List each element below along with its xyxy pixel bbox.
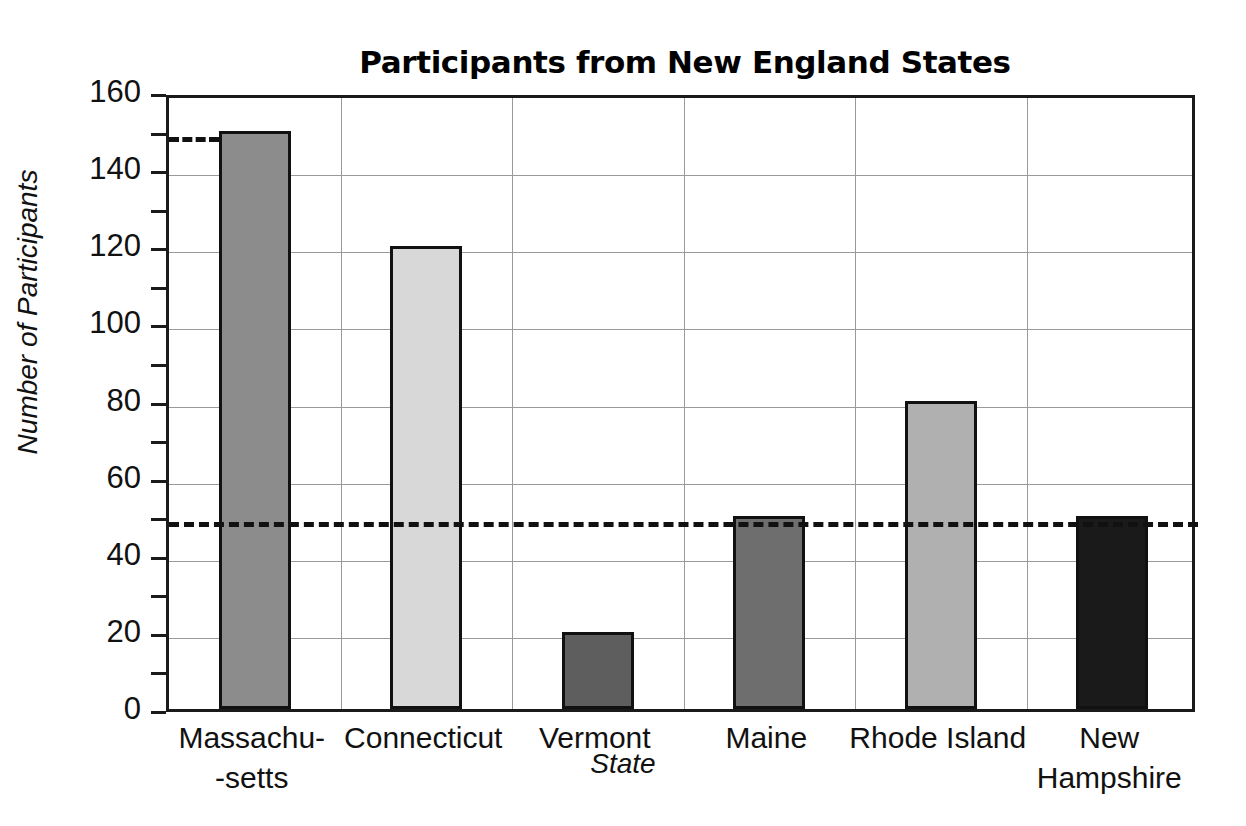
x-category-label-4: Maine: [667, 718, 867, 758]
x-category-line: Connecticut: [324, 718, 524, 758]
y-tick-minor: [151, 672, 166, 675]
gridline-vertical: [341, 98, 342, 709]
y-tick-minor: [151, 287, 166, 290]
gridline-vertical: [1027, 98, 1028, 709]
chart-title: Participants from New England States: [170, 44, 1200, 80]
reference-line-150: [169, 137, 219, 142]
y-tick-minor: [151, 518, 166, 521]
gridline-horizontal: [169, 407, 1192, 408]
x-category-label-5: Rhode Island: [838, 718, 1038, 758]
y-tick-minor: [151, 595, 166, 598]
x-category-label-1: Massachu--setts: [152, 718, 352, 798]
gridline-vertical: [855, 98, 856, 709]
bar-5: [905, 401, 977, 710]
y-tick-label: 100: [0, 305, 141, 341]
y-tick-major: [151, 711, 166, 714]
y-tick-label: 120: [0, 228, 141, 264]
y-tick-minor: [151, 364, 166, 367]
y-tick-minor: [151, 210, 166, 213]
bar-1: [219, 131, 291, 709]
bar-chart: Participants from New England States Num…: [0, 0, 1246, 826]
gridline-horizontal: [169, 252, 1192, 253]
y-tick-label: 20: [0, 614, 141, 650]
x-category-line: Maine: [667, 718, 867, 758]
reference-line-50: [169, 522, 1198, 527]
gridline-horizontal: [169, 484, 1192, 485]
bar-2: [390, 246, 462, 709]
y-tick-major: [151, 403, 166, 406]
y-tick-major: [151, 480, 166, 483]
y-tick-major: [151, 557, 166, 560]
gridline-horizontal: [169, 175, 1192, 176]
y-tick-label: 80: [0, 383, 141, 419]
y-tick-major: [151, 634, 166, 637]
y-tick-minor: [151, 441, 166, 444]
x-category-line: Vermont: [495, 718, 695, 758]
bar-6: [1076, 516, 1148, 709]
bar-3: [562, 632, 634, 709]
gridline-horizontal: [169, 561, 1192, 562]
y-tick-major: [151, 94, 166, 97]
plot-area: [166, 95, 1195, 712]
x-category-line: New: [1010, 718, 1210, 758]
gridline-vertical: [684, 98, 685, 709]
y-tick-label: 160: [0, 74, 141, 110]
x-category-line: -setts: [152, 758, 352, 798]
x-category-label-6: NewHampshire: [1010, 718, 1210, 798]
y-tick-major: [151, 248, 166, 251]
y-tick-label: 60: [0, 460, 141, 496]
y-tick-minor: [151, 133, 166, 136]
gridline-vertical: [512, 98, 513, 709]
x-category-label-3: Vermont: [495, 718, 695, 758]
y-tick-major: [151, 171, 166, 174]
x-category-line: Rhode Island: [838, 718, 1038, 758]
y-tick-major: [151, 325, 166, 328]
x-category-line: Massachu-: [152, 718, 352, 758]
y-tick-label: 140: [0, 151, 141, 187]
gridline-horizontal: [169, 329, 1192, 330]
bar-4: [733, 516, 805, 709]
x-category-line: Hampshire: [1010, 758, 1210, 798]
x-category-label-2: Connecticut: [324, 718, 524, 758]
gridline-horizontal: [169, 638, 1192, 639]
y-tick-label: 0: [0, 691, 141, 727]
y-tick-label: 40: [0, 537, 141, 573]
